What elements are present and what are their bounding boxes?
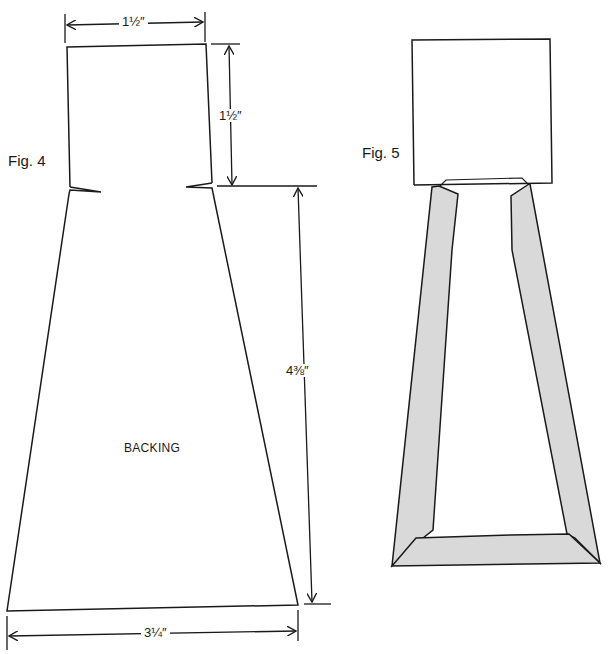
fig4-label: Fig. 4 xyxy=(8,153,46,168)
dimension-bottom-width-label: 3¼″ xyxy=(141,626,170,639)
fig4-backing-shape xyxy=(7,44,298,611)
dimension-trapezoid-height xyxy=(298,188,331,604)
dimension-top-height-label: 1½″ xyxy=(216,109,245,122)
pattern-diagram: Fig. 4 1½″ 1½″ 4⅜″ 3¼″ BACKING Fig. 5 xyxy=(0,0,612,654)
dimension-top-width-label: 1½″ xyxy=(119,15,148,28)
fig5-assembled-shape xyxy=(392,39,600,566)
diagram-drawing xyxy=(0,0,612,654)
fig5-label: Fig. 5 xyxy=(362,145,400,160)
backing-label: BACKING xyxy=(124,442,180,454)
dimension-trapezoid-height-label: 4⅜″ xyxy=(283,364,312,377)
